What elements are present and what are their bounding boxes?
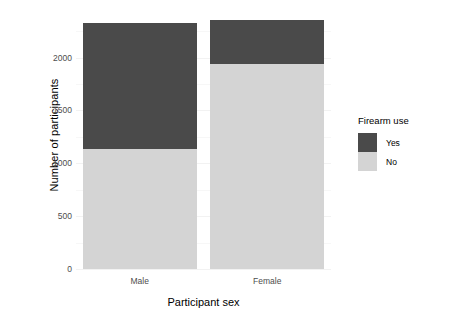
legend-item-yes: Yes [358,133,450,152]
gridline-major [76,269,331,270]
legend-title: Firearm use [358,115,450,126]
legend-label: Yes [386,138,400,148]
legend-swatch-yes [358,133,377,152]
y-axis-tick-label: 0 [30,265,72,274]
x-axis-tick-label: Male [83,276,197,286]
y-axis-tick-label: 1500 [30,106,72,115]
legend-item-no: No [358,152,450,171]
legend-label: No [386,157,397,167]
bar-segment-female-no [210,64,324,269]
bar-male [83,10,197,269]
bar-segment-female-yes [210,20,324,64]
legend: Firearm use YesNo [358,115,450,171]
bar-segment-male-yes [83,23,197,148]
stacked-bar-chart: Number of participants 0500100015002000 … [0,0,453,327]
y-axis-tick-labels: 0500100015002000 [30,0,72,327]
legend-items: YesNo [358,133,450,171]
bar-segment-male-no [83,149,197,269]
x-axis-tick-labels: MaleFemale [76,276,331,290]
legend-swatch-no [358,152,377,171]
x-axis-tick-label: Female [210,276,324,286]
x-axis-title: Participant sex [76,296,331,308]
plot-panel [76,10,331,269]
bar-female [210,10,324,269]
y-axis-tick-label: 1000 [30,159,72,168]
y-axis-tick-label: 2000 [30,54,72,63]
y-axis-tick-label: 500 [30,212,72,221]
